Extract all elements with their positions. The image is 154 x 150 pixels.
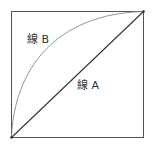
corner-dot-bottom-left (10, 136, 13, 139)
line-a-label: 線 A (77, 80, 99, 92)
diagram-canvas (0, 0, 154, 150)
line-a (12, 12, 144, 138)
line-b-label: 線 B (27, 34, 49, 46)
corner-dot-top-right (142, 10, 145, 13)
